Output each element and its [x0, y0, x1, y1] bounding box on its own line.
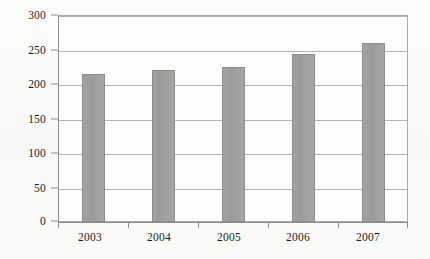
bar-2006[interactable]: [292, 54, 315, 222]
bar-2003[interactable]: [82, 74, 105, 222]
y-tick-mark-250: [51, 49, 58, 50]
x-tick-label-2005: 2005: [217, 231, 241, 243]
x-tick-label-2004: 2004: [147, 231, 171, 243]
x-tick-mark-0: [58, 222, 59, 228]
bar-chart-figure: 300 250 200 150 100 50 0 2003 2004 2005 …: [0, 0, 430, 259]
y-tick-label-150: 150: [28, 113, 46, 125]
y-tick-mark-100: [51, 153, 58, 154]
y-tick-label-50: 50: [34, 182, 46, 194]
y-tick-label-250: 250: [28, 44, 46, 56]
y-tick-mark-200: [51, 84, 58, 85]
bar-2004[interactable]: [152, 70, 175, 222]
y-tick-mark-300: [51, 15, 58, 16]
y-tick-mark-50: [51, 187, 58, 188]
x-tick-mark-4: [338, 222, 339, 228]
x-tick-mark-5: [407, 222, 408, 228]
y-tick-label-300: 300: [28, 9, 46, 21]
x-tick-label-2006: 2006: [286, 231, 310, 243]
bar-2005[interactable]: [222, 67, 245, 222]
y-tick-label-0: 0: [40, 215, 46, 227]
bars-layer: [58, 15, 408, 222]
x-tick-label-2003: 2003: [78, 231, 102, 243]
x-tick-mark-1: [128, 222, 129, 228]
x-tick-label-2007: 2007: [356, 231, 380, 243]
y-tick-label-100: 100: [28, 147, 46, 159]
x-axis: 2003 2004 2005 2006 2007: [58, 222, 408, 259]
bar-2007[interactable]: [362, 43, 385, 222]
x-tick-mark-3: [268, 222, 269, 228]
x-tick-mark-2: [198, 222, 199, 228]
y-axis: 300 250 200 150 100 50 0: [0, 0, 58, 259]
y-tick-label-200: 200: [28, 78, 46, 90]
y-tick-mark-0: [51, 221, 58, 222]
y-tick-mark-150: [51, 118, 58, 119]
